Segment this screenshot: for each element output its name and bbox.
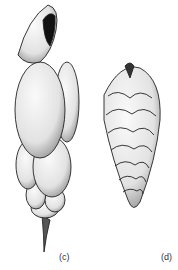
illustration-c [0, 0, 178, 270]
illustration-d [104, 63, 160, 208]
panel-label-d: (d) [161, 252, 172, 262]
panel-label-c: (c) [59, 252, 70, 262]
